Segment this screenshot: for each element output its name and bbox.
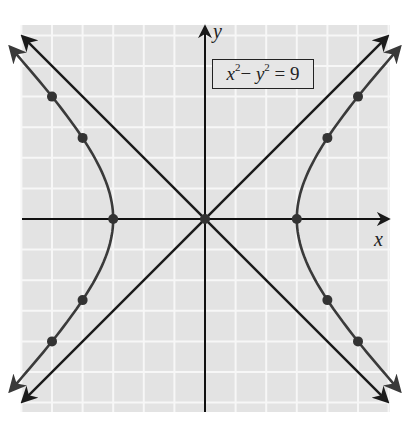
hyperbola-chart — [0, 0, 411, 427]
eq-minus: − — [240, 63, 251, 84]
eq-exp-2: 2 — [264, 61, 270, 73]
eq-x: x — [226, 63, 234, 84]
y-axis-label: y — [213, 20, 222, 43]
equation-label: x2− y2 = 9 — [212, 59, 314, 89]
x-axis-label: x — [374, 228, 383, 251]
eq-rhs: = 9 — [275, 63, 300, 84]
